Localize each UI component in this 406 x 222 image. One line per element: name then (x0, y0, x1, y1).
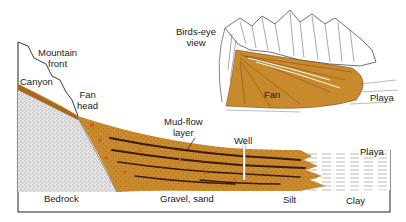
label-silt: Silt (283, 194, 296, 205)
label-bedrock: Bedrock (44, 193, 79, 204)
label-mud-flow-layer: Mud-flow layer (164, 116, 203, 138)
label-gravel-sand: Gravel, sand (160, 193, 214, 204)
label-well: Well (234, 135, 252, 146)
alluvial-fan-diagram: Mountain front Canyon Fan head Mud-flow … (0, 0, 406, 222)
label-clay: Clay (346, 195, 365, 206)
label-fan-head: Fan head (77, 89, 98, 111)
label-playa-section: Playa (360, 146, 384, 157)
label-birds-eye-view: Birds-eye view (176, 26, 216, 48)
label-inset-playa: Playa (370, 92, 394, 103)
label-mountain-front: Mountain front (38, 47, 77, 69)
label-canyon: Canyon (20, 76, 53, 87)
label-inset-fan: Fan (264, 89, 280, 100)
